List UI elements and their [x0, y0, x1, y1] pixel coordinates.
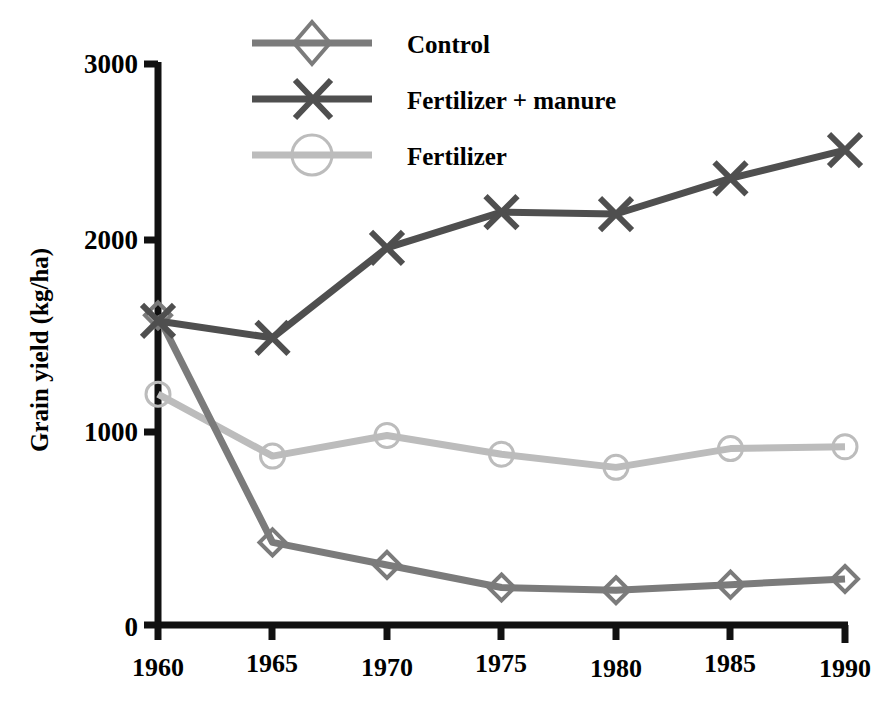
legend-item-control[interactable]: Control: [252, 22, 490, 64]
grain-yield-line-chart: Grain yield (kg/ha) 3000 2000 1000 0 196…: [0, 0, 884, 707]
data-series-layer: [142, 134, 861, 603]
x-tick-label-1960: 1960: [132, 653, 184, 682]
x-tick-label-1990: 1990: [819, 654, 871, 683]
chart-container: Grain yield (kg/ha) 3000 2000 1000 0 196…: [0, 0, 884, 707]
x-tick-label-1965: 1965: [246, 649, 298, 678]
x-tick-label-1970: 1970: [361, 653, 413, 682]
y-tick-label-0: 0: [125, 612, 139, 642]
legend-item-fertilizer-manure[interactable]: Fertilizer + manure: [252, 80, 616, 118]
y-tick-label-1000: 1000: [84, 417, 138, 447]
x-tick-label-1975: 1975: [475, 649, 527, 678]
legend-label-fertilizer: Fertilizer: [407, 143, 507, 170]
legend: Control Fertilizer + manure Fertilizer: [252, 22, 616, 175]
x-tick-label-1985: 1985: [704, 649, 756, 678]
legend-label-fertilizer-manure: Fertilizer + manure: [407, 87, 616, 114]
series-line: [158, 150, 845, 338]
y-tick-label-2000: 2000: [84, 225, 138, 255]
legend-label-control: Control: [407, 31, 490, 58]
y-axis-title: Grain yield (kg/ha): [26, 248, 54, 452]
y-tick-label-3000: 3000: [84, 49, 138, 79]
legend-item-fertilizer[interactable]: Fertilizer: [252, 135, 507, 175]
series-fertilizer: [146, 382, 857, 479]
x-tick-label-1980: 1980: [590, 654, 642, 683]
